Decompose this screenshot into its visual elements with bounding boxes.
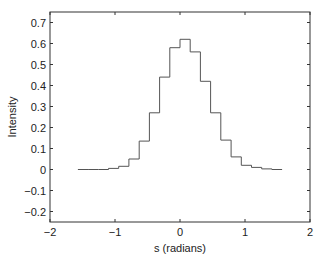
y-tick-label: 0.1 — [31, 143, 46, 155]
x-tick-label: −1 — [109, 226, 122, 238]
y-tick-label: 0.2 — [31, 122, 46, 134]
x-tick-label: 0 — [177, 226, 183, 238]
y-tick-label: −0.2 — [24, 206, 46, 218]
x-tick-label: −2 — [44, 226, 57, 238]
y-axis-label: Intensity — [6, 96, 18, 137]
x-tick-label: 1 — [242, 226, 248, 238]
histogram-chart: −2−1012 −0.2−0.100.10.20.30.40.50.60.7 s… — [0, 0, 328, 260]
y-tick-label: −0.1 — [24, 185, 46, 197]
y-tick-label: 0.4 — [31, 80, 46, 92]
y-tick-label: 0.7 — [31, 17, 46, 29]
y-tick-label: 0 — [40, 164, 46, 176]
x-axis-label: s (radians) — [154, 242, 206, 254]
y-tick-label: 0.3 — [31, 101, 46, 113]
x-tick-label: 2 — [307, 226, 313, 238]
y-tick-label: 0.6 — [31, 38, 46, 50]
y-tick-label: 0.5 — [31, 59, 46, 71]
